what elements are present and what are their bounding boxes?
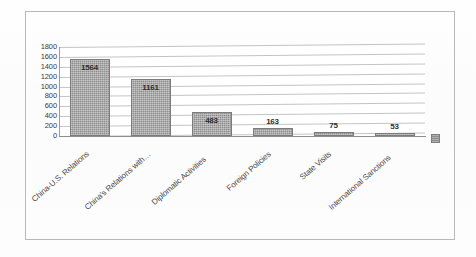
x-axis-category-label: State Visits (298, 150, 333, 182)
chart-screenshot: 180016001400120010008006004002000 156411… (0, 0, 476, 257)
x-axis-category-label: Diplomatic Activities (150, 155, 208, 207)
x-axis-category-label: China-U.S. Relations (30, 149, 91, 203)
x-axis-category-label: Foreign Policies (225, 150, 273, 193)
legend-color-swatch (431, 134, 440, 143)
x-axis-category-labels: China-U.S. RelationsChina's Relations wi… (0, 0, 476, 257)
x-axis-category-label: International Sanctions (327, 153, 393, 212)
x-axis-category-label: China's Relations with… (83, 150, 152, 212)
